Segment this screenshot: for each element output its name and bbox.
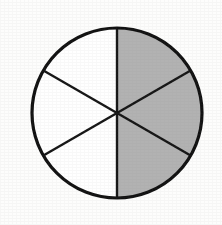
fraction-circle-figure: Shaded fraction circle A circle divided …: [0, 0, 222, 225]
fraction-circle-diagram: Shaded fraction circle A circle divided …: [0, 0, 222, 225]
